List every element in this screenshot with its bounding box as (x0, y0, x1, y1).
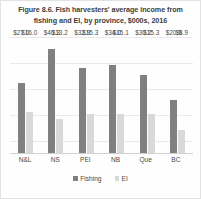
bar-ei-pei[interactable]: $15.3 (87, 37, 94, 153)
bar-ei-ns[interactable]: $13.2 (56, 37, 63, 153)
legend-label-fishing: Fishing (80, 175, 101, 182)
bar-value-label: $8.9 (176, 29, 188, 36)
x-axis-label-ns: NS (41, 156, 69, 163)
legend-swatch-fishing-icon (73, 176, 78, 181)
bar-group: $34.0$15.1 (103, 37, 131, 153)
bar-rect: $30.2 (140, 75, 147, 153)
bar-fishing-que[interactable]: $30.2 (140, 37, 147, 153)
chart-title-line-1: Figure 8.6. Fish harvesters' average inc… (7, 4, 194, 15)
bar-value-label: $13.2 (52, 29, 68, 36)
bar-rect: $8.9 (178, 130, 185, 153)
x-axis-label-nl: N&L (11, 156, 39, 163)
chart-title: Figure 8.6. Fish harvesters' average inc… (7, 4, 194, 26)
bar-fishing-nl[interactable]: $27.0 (18, 37, 25, 153)
legend-item-fishing[interactable]: Fishing (73, 175, 101, 182)
bar-rect: $15.3 (148, 114, 155, 153)
bar-ei-bc[interactable]: $8.9 (178, 37, 185, 153)
bar-rect: $40.3 (48, 49, 55, 153)
legend-swatch-ei-icon (115, 176, 120, 181)
bar-group: $30.2$15.3 (133, 37, 161, 153)
x-axis-label-pei: PEI (71, 156, 99, 163)
legend-item-ei[interactable]: EI (115, 175, 128, 182)
bar-ei-nb[interactable]: $15.1 (117, 37, 124, 153)
x-axis-line (10, 153, 193, 154)
chart-legend: Fishing EI (1, 175, 200, 182)
bar-ei-nl[interactable]: $16.0 (26, 37, 33, 153)
bar-rect: $15.1 (117, 114, 124, 153)
bar-group: $27.0$16.0 (11, 37, 39, 153)
bar-fishing-bc[interactable]: $20.6 (170, 37, 177, 153)
bar-group: $32.9$15.3 (72, 37, 100, 153)
x-axis-label-bc: BC (162, 156, 190, 163)
bar-rect: $32.9 (79, 68, 86, 153)
bar-value-label: $15.3 (143, 29, 159, 36)
bar-value-label: $15.1 (113, 29, 129, 36)
chart-title-line-2: fishing and EI, by province, $000s, 2016 (7, 15, 194, 26)
bar-rect: $15.3 (87, 114, 94, 153)
bar-fishing-pei[interactable]: $32.9 (79, 37, 86, 153)
bar-value-label: $16.0 (21, 29, 37, 36)
chart-figure: Figure 8.6. Fish harvesters' average inc… (0, 0, 201, 199)
bar-group: $20.6$8.9 (164, 37, 192, 153)
x-axis-label-nb: NB (102, 156, 130, 163)
bar-rect: $27.0 (18, 83, 25, 153)
bar-rect: $13.2 (56, 119, 63, 153)
bar-fishing-nb[interactable]: $34.0 (109, 37, 116, 153)
bar-rect: $34.0 (109, 65, 116, 153)
bar-value-label: $15.3 (82, 29, 98, 36)
bar-rect: $20.6 (170, 100, 177, 153)
bar-fishing-ns[interactable]: $40.3 (48, 37, 55, 153)
bar-groups: $27.0$16.0$40.3$13.2$32.9$15.3$34.0$15.1… (10, 37, 193, 153)
plot-area: $27.0$16.0$40.3$13.2$32.9$15.3$34.0$15.1… (10, 37, 193, 154)
bar-group: $40.3$13.2 (42, 37, 70, 153)
bar-rect: $16.0 (26, 112, 33, 153)
x-axis-label-que: Que (132, 156, 160, 163)
legend-label-ei: EI (122, 175, 128, 182)
x-axis-tick-labels: N&LNSPEINBQueBC (10, 156, 191, 163)
bar-ei-que[interactable]: $15.3 (148, 37, 155, 153)
